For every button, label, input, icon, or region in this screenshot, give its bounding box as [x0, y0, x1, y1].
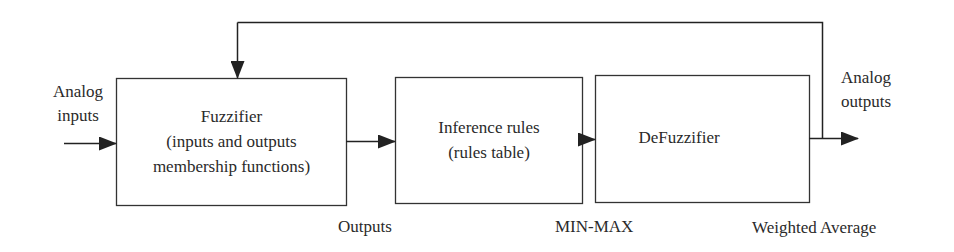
fuzzifier-subtitle-2: membership functions) — [153, 154, 310, 179]
analog-outputs-line-1: Analog — [841, 66, 891, 90]
analog-inputs-label: Analog inputs — [44, 80, 112, 128]
analog-outputs-line-2: outputs — [841, 90, 891, 114]
analog-outputs-label: Analog outputs — [841, 66, 891, 114]
inference-subtitle: (rules table) — [448, 140, 530, 165]
min-max-stage-label: MIN-MAX — [555, 215, 633, 239]
outputs-stage-label: Outputs — [338, 215, 392, 239]
analog-inputs-line-1: Analog — [44, 80, 112, 104]
defuzzifier-title: DeFuzzifier — [638, 125, 719, 150]
fuzzifier-title: Fuzzifier — [201, 104, 262, 129]
fuzzifier-text: Fuzzifier (inputs and outputs membership… — [116, 92, 347, 190]
weighted-average-stage-label: Weighted Average — [752, 216, 876, 240]
analog-inputs-line-2: inputs — [44, 104, 112, 128]
inference-title: Inference rules — [438, 115, 539, 140]
defuzzifier-text: DeFuzzifier — [595, 122, 763, 152]
inference-text: Inference rules (rules table) — [395, 110, 583, 170]
fuzzifier-subtitle-1: (inputs and outputs — [166, 129, 296, 154]
